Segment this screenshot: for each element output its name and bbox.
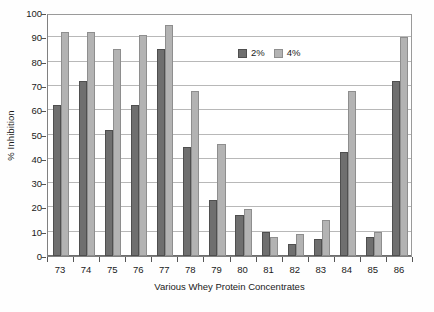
- y-tick-label-100: 100: [14, 9, 42, 18]
- bar-81-2pct: [262, 232, 270, 256]
- y-tick-label-40: 40: [14, 155, 42, 165]
- bar-81-4pct: [270, 237, 278, 256]
- y-tick-label-30: 30: [14, 179, 42, 189]
- bar-78-4pct: [191, 91, 199, 256]
- y-tick-mark-50: [41, 136, 46, 137]
- y-tick-mark-30: [41, 184, 46, 185]
- dark-gray-swatch-icon: [238, 49, 247, 58]
- x-tick-mark-5: [177, 257, 178, 262]
- x-tick-label-76: 76: [125, 264, 151, 275]
- x-axis-title: Various Whey Protein Concentrates: [47, 281, 412, 292]
- y-tick-mark-70: [41, 87, 46, 88]
- x-tick-label-81: 81: [256, 264, 282, 275]
- x-tick-label-82: 82: [282, 264, 308, 275]
- bar-73-2pct: [53, 105, 61, 256]
- bar-86-2pct: [392, 81, 400, 256]
- x-tick-label-86: 86: [386, 264, 412, 275]
- bar-83-4pct: [322, 220, 330, 256]
- x-tick-label-80: 80: [230, 264, 256, 275]
- x-tick-mark-6: [203, 257, 204, 262]
- y-tick-label-50: 50: [14, 131, 42, 141]
- y-tick-label-20: 20: [14, 204, 42, 214]
- x-tick-mark-1: [73, 257, 74, 262]
- y-tick-label-70: 70: [14, 82, 42, 92]
- bar-77-2pct: [157, 49, 165, 256]
- legend-entry-2pct: 2%: [238, 48, 265, 58]
- legend-entry-4pct: 4%: [274, 48, 301, 58]
- bar-chart: % Inhibition 1009080706050403020100 7374…: [0, 0, 434, 312]
- bar-80-4pct: [244, 209, 252, 256]
- chart-legend: 2%4%: [236, 47, 302, 59]
- bar-76-2pct: [131, 105, 139, 256]
- bar-80-2pct: [235, 215, 243, 256]
- x-tick-mark-11: [334, 257, 335, 262]
- y-tick-label-10: 10: [14, 228, 42, 238]
- x-tick-label-74: 74: [73, 264, 99, 275]
- bar-79-2pct: [209, 200, 217, 256]
- x-tick-mark-14: [412, 257, 413, 262]
- x-tick-mark-12: [360, 257, 361, 262]
- y-tick-label-60: 60: [14, 106, 42, 116]
- bar-83-2pct: [314, 239, 322, 256]
- bar-85-4pct: [374, 232, 382, 256]
- bar-86-4pct: [400, 37, 408, 256]
- x-tick-label-78: 78: [177, 264, 203, 275]
- y-tick-label-80: 80: [14, 58, 42, 68]
- x-tick-label-84: 84: [334, 264, 360, 275]
- x-tick-label-85: 85: [360, 264, 386, 275]
- y-tick-mark-90: [41, 38, 46, 39]
- light-gray-swatch-icon: [274, 49, 283, 58]
- plot-area: [47, 14, 412, 257]
- bar-74-4pct: [87, 32, 95, 256]
- legend-label-4pct: 4%: [287, 48, 301, 58]
- x-tick-mark-0: [47, 257, 48, 262]
- x-tick-mark-10: [308, 257, 309, 262]
- bar-82-4pct: [296, 234, 304, 256]
- y-tick-mark-0: [41, 257, 46, 258]
- x-tick-label-83: 83: [308, 264, 334, 275]
- x-tick-label-79: 79: [203, 264, 229, 275]
- y-tick-mark-20: [41, 208, 46, 209]
- bar-79-4pct: [217, 144, 225, 256]
- bar-77-4pct: [165, 25, 173, 256]
- x-tick-mark-7: [230, 257, 231, 262]
- x-tick-label-73: 73: [47, 264, 73, 275]
- x-tick-label-77: 77: [151, 264, 177, 275]
- x-tick-mark-4: [151, 257, 152, 262]
- y-tick-mark-10: [41, 233, 46, 234]
- x-tick-mark-2: [99, 257, 100, 262]
- bar-75-4pct: [113, 49, 121, 256]
- bar-84-4pct: [348, 91, 356, 256]
- bar-76-4pct: [139, 35, 147, 256]
- bar-74-2pct: [79, 81, 87, 256]
- y-axis-tick-labels: 1009080706050403020100: [14, 14, 42, 257]
- bar-78-2pct: [183, 147, 191, 256]
- legend-label-2pct: 2%: [251, 48, 265, 58]
- x-tick-mark-8: [256, 257, 257, 262]
- bar-73-4pct: [61, 32, 69, 256]
- x-axis-tick-labels: 7374757677787980818283848586: [47, 264, 412, 278]
- y-tick-mark-40: [41, 160, 46, 161]
- bar-75-2pct: [105, 130, 113, 256]
- bar-84-2pct: [340, 152, 348, 256]
- y-tick-mark-60: [41, 111, 46, 112]
- bars-layer: [48, 15, 411, 256]
- bar-85-2pct: [366, 237, 374, 256]
- y-tick-label-0: 0: [14, 252, 42, 261]
- x-tick-label-75: 75: [99, 264, 125, 275]
- bar-82-2pct: [288, 244, 296, 256]
- y-tick-mark-100: [41, 14, 46, 15]
- x-tick-mark-13: [386, 257, 387, 262]
- x-tick-mark-9: [282, 257, 283, 262]
- y-tick-label-90: 90: [14, 34, 42, 44]
- x-tick-mark-3: [125, 257, 126, 262]
- y-tick-mark-80: [41, 63, 46, 64]
